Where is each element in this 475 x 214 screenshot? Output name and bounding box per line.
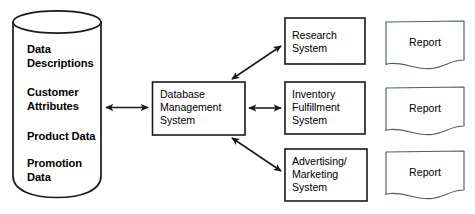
diagram-canvas: Data Descriptions Customer Attributes Pr… (0, 0, 475, 214)
system-box-research-system[interactable] (285, 18, 365, 64)
system-box-inventory-fulfillment-system[interactable] (285, 82, 365, 134)
report-document-1[interactable] (386, 21, 464, 69)
connector-process-advertising (232, 138, 281, 171)
process-box-database-management-system[interactable] (152, 82, 245, 135)
system-box-advertising-marketing-system[interactable] (285, 149, 367, 201)
report-document-2[interactable] (386, 87, 464, 135)
connector-process-research (232, 46, 281, 79)
data-store-cylinder[interactable] (13, 11, 101, 198)
report-document-3[interactable] (386, 151, 464, 199)
